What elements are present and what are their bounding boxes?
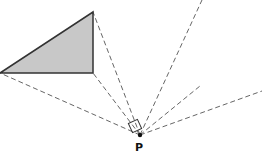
ray-far-right bbox=[140, 91, 262, 135]
ray-far-upper bbox=[140, 0, 202, 135]
point-p-label: P bbox=[135, 141, 143, 154]
ray-mid-right bbox=[140, 86, 200, 135]
ray-to-triangle-top bbox=[93, 12, 140, 135]
point-p-dot bbox=[138, 133, 142, 137]
shaded-triangle bbox=[0, 12, 93, 73]
diagram-canvas bbox=[0, 0, 264, 158]
ray-to-triangle-right bbox=[93, 73, 140, 135]
ray-to-triangle-left bbox=[0, 73, 140, 135]
